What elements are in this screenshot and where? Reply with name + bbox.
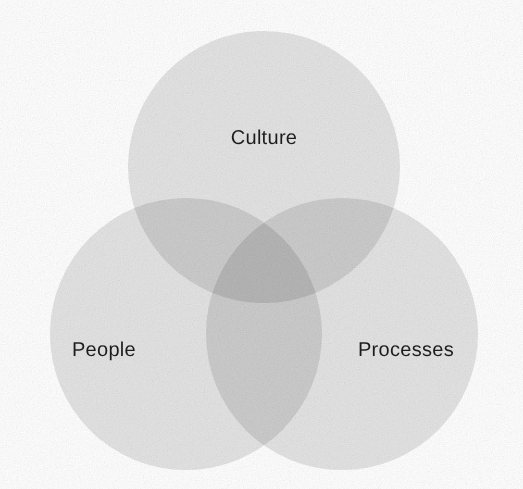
- venn-label-culture: Culture: [231, 127, 298, 150]
- venn-circle-processes: [206, 198, 478, 470]
- venn-circles-canvas: [0, 0, 523, 489]
- venn-label-people: People: [72, 339, 136, 362]
- venn-diagram: Culture People Processes: [0, 0, 523, 489]
- venn-label-processes: Processes: [358, 339, 454, 362]
